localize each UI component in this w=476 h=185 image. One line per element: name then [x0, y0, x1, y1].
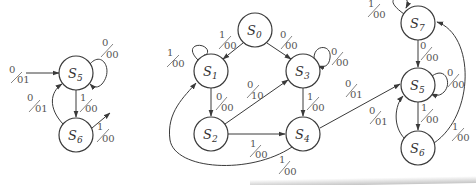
svg-text:00: 00 — [336, 57, 349, 68]
svg-text:0: 0 — [280, 29, 286, 40]
label-s5-loop-r: 0 00 — [447, 67, 465, 90]
svg-text:1: 1 — [219, 29, 225, 40]
state-s6-left[interactable]: S6 — [59, 118, 93, 152]
label-s0-s1: 1 00 — [219, 29, 237, 51]
svg-text:1: 1 — [97, 121, 103, 132]
state-diagram: S5 S6 0 01 0 00 1 00 0 01 1 — [0, 0, 476, 185]
label-s6-s5: 0 01 — [27, 92, 48, 114]
svg-text:1: 1 — [167, 47, 173, 58]
svg-text:00: 00 — [172, 58, 185, 69]
svg-text:10: 10 — [251, 90, 264, 101]
svg-text:1: 1 — [307, 91, 313, 102]
label-s5-s6: 1 00 — [80, 92, 98, 114]
edge-s6-s5-r — [396, 96, 405, 139]
svg-text:0: 0 — [331, 46, 337, 57]
state-s5-left[interactable]: S5 — [59, 56, 93, 90]
label-s2-s4: 1 00 — [250, 138, 268, 160]
svg-text:00: 00 — [426, 52, 439, 63]
svg-text:00: 00 — [85, 103, 98, 114]
svg-text:1: 1 — [80, 92, 86, 103]
label-s0-s3: 0 00 — [280, 29, 298, 51]
svg-text:0: 0 — [102, 37, 108, 48]
state-s7[interactable]: S7 — [401, 6, 435, 40]
right-subdiagram: S7 S5 S6 1 00 0 00 0 00 1 00 — [368, 0, 470, 165]
svg-text:00: 00 — [452, 79, 465, 90]
svg-text:00: 00 — [255, 149, 268, 160]
state-s3[interactable]: S3 — [286, 54, 320, 88]
svg-text:00: 00 — [426, 114, 439, 125]
svg-text:01: 01 — [17, 74, 30, 85]
state-s6-right[interactable]: S6 — [401, 131, 435, 165]
svg-text:00: 00 — [102, 133, 115, 144]
svg-text:0: 0 — [216, 91, 222, 102]
svg-text:00: 00 — [312, 102, 325, 113]
svg-text:0: 0 — [369, 105, 375, 116]
edge-s6-s5 — [52, 84, 63, 124]
svg-text:0: 0 — [420, 40, 426, 51]
label-in: 0 01 — [9, 64, 30, 85]
left-subdiagram: S5 S6 0 01 0 00 1 00 0 01 1 — [9, 37, 119, 152]
middle-subdiagram: S0 S1 S2 S3 S4 1 00 0 00 1 — [167, 13, 400, 177]
label-s1-loop: 1 00 — [167, 47, 185, 69]
svg-text:00: 00 — [106, 49, 119, 60]
label-s4-s1: 1 00 — [279, 154, 297, 177]
svg-text:01: 01 — [350, 89, 363, 100]
label-s5-loop: 0 00 — [101, 37, 119, 60]
svg-text:00: 00 — [285, 40, 298, 51]
svg-text:0: 0 — [447, 67, 453, 78]
state-s0[interactable]: S0 — [238, 13, 272, 47]
label-s1-s2: 0 00 — [216, 91, 234, 113]
label-s7-s5: 0 00 — [420, 40, 439, 63]
label-s3-s4: 1 00 — [307, 91, 325, 113]
svg-text:00: 00 — [284, 166, 297, 177]
state-s4[interactable]: S4 — [286, 117, 320, 151]
svg-text:00: 00 — [457, 132, 470, 143]
label-s3-loop: 0 00 — [331, 46, 349, 68]
state-s2[interactable]: S2 — [194, 117, 228, 151]
svg-text:00: 00 — [221, 102, 234, 113]
label-s6-out: 1 00 — [97, 121, 115, 144]
state-s5-right[interactable]: S5 — [401, 68, 435, 102]
svg-text:1: 1 — [250, 138, 256, 149]
edge-s4-s1 — [169, 83, 292, 165]
svg-text:1: 1 — [421, 102, 427, 113]
label-s6-s5-r: 0 01 — [369, 105, 388, 127]
svg-text:1: 1 — [368, 0, 374, 9]
svg-text:01: 01 — [35, 103, 48, 114]
label-s4-s5: 0 01 — [345, 78, 363, 100]
svg-text:0: 0 — [27, 92, 33, 103]
svg-text:1: 1 — [279, 154, 285, 165]
svg-text:00: 00 — [373, 9, 386, 20]
edge-s2-s3 — [225, 80, 288, 124]
svg-text:01: 01 — [375, 116, 388, 127]
label-s2-s3: 0 10 — [247, 79, 264, 101]
label-s7-loop: 1 00 — [368, 0, 386, 20]
label-s5-s6-r: 1 00 — [421, 102, 439, 125]
svg-text:0: 0 — [345, 78, 351, 89]
svg-text:1: 1 — [452, 121, 458, 132]
svg-text:0: 0 — [9, 64, 15, 75]
state-s1[interactable]: S1 — [194, 54, 228, 88]
label-s6-s7: 1 00 — [452, 121, 470, 143]
svg-text:00: 00 — [224, 40, 237, 51]
svg-text:0: 0 — [247, 79, 253, 90]
